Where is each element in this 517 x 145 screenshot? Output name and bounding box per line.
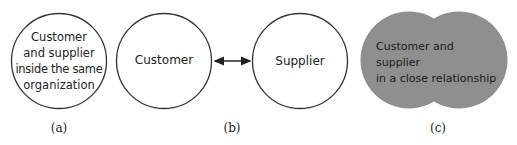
- panel-c-line-2: in a close relationship: [370, 71, 496, 87]
- panel-a-line-3: inside the same: [15, 61, 102, 77]
- panel-a-line-4: organization: [23, 77, 95, 93]
- panel-c-line-1: Customer and supplier: [370, 39, 500, 71]
- customer-node-label: Customer: [117, 50, 211, 70]
- caption-b: (b): [223, 121, 240, 135]
- panel-a-line-1: Customer: [31, 29, 87, 45]
- panel-a-text: Customer and supplier inside the same or…: [13, 26, 105, 96]
- caption-c: (c): [430, 121, 446, 135]
- caption-a: (a): [51, 121, 68, 135]
- panel-a-line-2: and supplier: [23, 45, 94, 61]
- supplier-node-label: Supplier: [253, 51, 347, 71]
- panel-c-text: Customer and supplier in a close relatio…: [370, 46, 500, 80]
